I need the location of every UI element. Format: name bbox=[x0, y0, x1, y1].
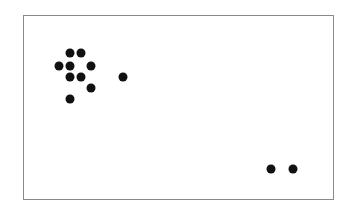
data-point bbox=[66, 73, 75, 82]
data-point bbox=[87, 62, 96, 71]
data-point bbox=[66, 62, 75, 71]
data-point bbox=[289, 165, 298, 174]
data-point bbox=[267, 165, 276, 174]
data-point bbox=[66, 49, 75, 58]
data-point bbox=[55, 62, 64, 71]
plot-frame bbox=[23, 15, 334, 200]
data-point bbox=[66, 95, 75, 104]
data-point bbox=[119, 73, 128, 82]
data-point bbox=[87, 84, 96, 93]
data-point bbox=[77, 49, 86, 58]
data-point bbox=[77, 73, 86, 82]
